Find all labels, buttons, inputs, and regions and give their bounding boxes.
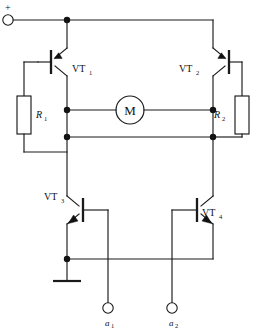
vt1-label: VT	[72, 63, 85, 74]
vt1-label-subscript: 1	[89, 69, 92, 76]
a1-terminal-ring[interactable]	[103, 303, 113, 313]
r2-label-subscript: 2	[222, 115, 225, 122]
transistor-vt3[interactable]: VT 3	[44, 191, 108, 259]
vt2-label-subscript: 2	[196, 69, 199, 76]
circuit-diagram-canvas: VT 1 VT 2 R 1	[0, 0, 260, 331]
vt2-label: VT	[179, 63, 192, 74]
r1-label: R	[35, 109, 42, 120]
a2-terminal-ring[interactable]	[167, 303, 177, 313]
vt4-label-subscript: 4	[219, 213, 223, 220]
dc-motor[interactable]: M	[116, 96, 144, 124]
resistor-r2[interactable]: R 2	[213, 62, 249, 137]
a1-label-subscript: 1	[111, 322, 114, 329]
ground-symbol	[53, 259, 81, 281]
transistor-vt2[interactable]: VT 2	[179, 48, 242, 110]
vt4-label: VT	[202, 207, 215, 218]
r1-body	[17, 96, 31, 134]
transistor-vt4[interactable]: VT 4	[172, 196, 223, 259]
a1-label: a	[105, 318, 110, 328]
a2-label-subscript: 2	[175, 322, 178, 329]
supply-terminal-ring[interactable]	[3, 15, 13, 25]
a2-label: a	[169, 318, 174, 328]
vt3-label: VT	[44, 191, 57, 202]
transistor-vt1[interactable]: VT 1	[38, 48, 92, 110]
r2-body	[235, 96, 249, 134]
vt3-collector-lead	[67, 196, 79, 206]
vt2-collector-lead	[213, 66, 225, 76]
vt1-collector-lead	[55, 66, 67, 76]
vt3-label-subscript: 3	[61, 197, 64, 204]
input-terminal-a2[interactable]: a 2	[167, 210, 178, 329]
input-terminal-a1[interactable]: a 1	[103, 210, 114, 329]
positive-supply-terminal[interactable]	[3, 15, 13, 25]
supply-polarity-label: +	[5, 2, 11, 13]
motor-label: M	[124, 103, 136, 118]
schematic-svg: VT 1 VT 2 R 1	[0, 0, 260, 331]
resistor-r1[interactable]: R 1	[17, 62, 67, 152]
r1-label-subscript: 1	[44, 115, 47, 122]
vt4-collector-lead	[201, 196, 213, 206]
